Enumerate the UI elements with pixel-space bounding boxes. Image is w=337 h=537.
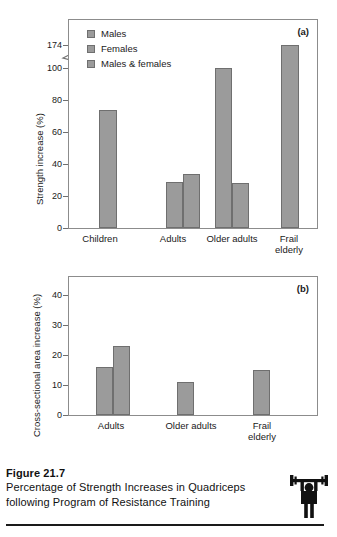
y-tick-label-b-20: 20 [40, 351, 62, 360]
bar-adults-females-b [113, 346, 130, 415]
weightlifter-icon [287, 472, 331, 524]
x-category-label-a-children: Children [65, 233, 135, 244]
bar-frail-elderly-males-females-b [253, 370, 270, 415]
panel-tag-a: (a) [297, 26, 309, 37]
x-category-label-a-adults: Adults [147, 233, 199, 244]
bar-adults-males-b [96, 367, 113, 415]
x-category-label-b-adults: Adults [85, 420, 137, 431]
y-tick-label-a-0: 0 [38, 224, 62, 233]
plot-area-b: (b) [68, 276, 318, 416]
x-category-label-b-frail-elderly-line1: Frail [253, 420, 271, 431]
figure-number: Figure 21.7 [6, 466, 256, 480]
chart-panel-a: Strength increase (%) 0 20 40 60 80 100 … [0, 0, 337, 265]
legend-item-males-and-females: Males & females [87, 57, 171, 70]
y-tick-label-b-10: 10 [40, 381, 62, 390]
legend-item-males: Males [87, 27, 171, 40]
bar-older-adults-males-females-b [177, 382, 194, 415]
caption-divider-rule [6, 524, 324, 526]
bar-adults-females [183, 174, 200, 228]
bar-older-adults-females [232, 183, 249, 228]
bar-frail-elderly-males-females [281, 45, 299, 228]
legend-swatch-males-and-females [87, 60, 95, 68]
bar-older-adults-males [215, 68, 232, 228]
bar-adults-males [166, 182, 183, 228]
panel-tag-b: (b) [297, 283, 309, 294]
legend-item-females: Females [87, 42, 171, 55]
figure-caption-line-1: Percentage of Strength Increases in Quad… [6, 480, 256, 495]
legend-a: Males Females Males & females [87, 27, 171, 72]
y-tick-label-b-30: 30 [40, 321, 62, 330]
y-tick-label-a-174: 174 [35, 41, 62, 50]
figure-container: Strength increase (%) 0 20 40 60 80 100 … [0, 0, 337, 537]
x-category-label-a-frail-elderly: Frail elderly [265, 233, 313, 255]
y-tick-label-a-40: 40 [38, 160, 62, 169]
legend-label-females: Females [101, 43, 137, 54]
figure-caption: Figure 21.7 Percentage of Strength Incre… [6, 466, 256, 509]
x-category-label-a-frail-elderly-line1: Frail [280, 233, 298, 244]
x-category-label-b-older-adults: Older adults [155, 420, 227, 431]
bar-children-males-females [99, 110, 117, 228]
x-category-label-b-frail-elderly: Frail elderly [238, 420, 286, 442]
y-tick-label-b-0: 0 [40, 411, 62, 420]
chart-panel-b: Cross-sectional area increase (%) 0 10 2… [0, 265, 337, 455]
plot-area-a: Males Females Males & females (a) [68, 19, 318, 229]
y-tick-label-a-100: 100 [35, 64, 62, 73]
y-tick-label-a-80: 80 [38, 96, 62, 105]
y-tick-label-a-20: 20 [38, 192, 62, 201]
x-category-label-a-frail-elderly-line2: elderly [275, 244, 303, 255]
y-tick-label-b-40: 40 [40, 291, 62, 300]
legend-label-males: Males [101, 28, 126, 39]
legend-swatch-females [87, 45, 95, 53]
y-tick-label-a-60: 60 [38, 128, 62, 137]
legend-swatch-males [87, 30, 95, 38]
x-category-label-b-frail-elderly-line2: elderly [248, 431, 276, 442]
figure-caption-line-2: following Program of Resistance Training [6, 495, 256, 510]
x-category-label-a-older-adults: Older adults [196, 233, 268, 244]
legend-label-males-and-females: Males & females [101, 58, 171, 69]
